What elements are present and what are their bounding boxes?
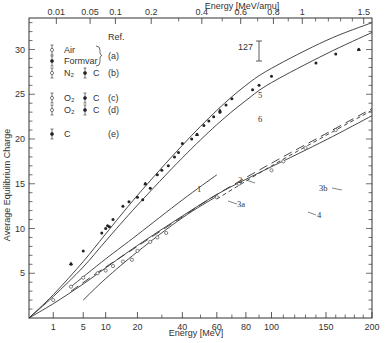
legend-label: O₂ [64,93,75,103]
x-tick-label: 150 [318,322,333,332]
filled-data-point [100,231,103,234]
open-data-point [130,258,133,261]
y-tick-label: 5 [20,268,25,278]
leader-2 [246,180,255,183]
open-data-point [52,299,55,302]
open-data-point [82,276,85,279]
curve-3a [83,196,217,300]
legend-ref: (d) [108,105,119,115]
filled-data-point [121,205,124,208]
top-tick-label: 0.2 [145,7,158,17]
filled-data-point [177,151,180,154]
curves [29,23,372,318]
open-data-point [69,285,72,288]
x-tick-label: 20 [132,322,142,332]
legend-label-2: C [93,68,100,78]
legend-symbol [50,96,53,99]
filled-data-point [190,138,193,141]
filled-data-point [82,249,85,252]
open-data-point [96,272,99,275]
curve-label-3a: 3a [237,199,245,209]
filled-data-point [225,103,228,106]
legend-ref: (e) [108,129,119,139]
y-tick-label: 25 [15,89,25,99]
filled-data-point [202,124,205,127]
data-points [52,48,361,302]
filled-data-point [136,196,139,199]
filled-data-point [314,61,317,64]
x-tick-label: 1 [51,322,56,332]
filled-data-point [141,198,144,201]
curve-label-1: 1 [197,184,201,194]
legend-ref: (b) [108,68,119,78]
leader-3a [228,201,237,204]
open-data-point [104,269,107,272]
legend-symbol [50,71,53,74]
curve-label-2: 2 [238,175,242,185]
x-tick-label: 5 [81,322,86,332]
legend-label: C [64,129,71,139]
curve-label-5: 5 [258,90,262,100]
x-axis-title: Energy [MeV] [169,328,224,338]
filled-data-point [207,120,210,123]
top-x-axis-title: Energy [MeV/amu] [205,1,280,11]
open-data-point [136,249,139,252]
open-data-point [111,264,114,267]
legend-ref: (c) [108,93,119,103]
annotation-127: 127 [238,41,262,61]
y-tick-label: 10 [15,224,25,234]
top-tick-label: 0.05 [81,7,99,17]
filled-data-point [127,200,130,203]
curve-labels: 56123b3a4 [197,90,342,220]
y-tick-label: 30 [15,45,25,55]
open-data-point [215,196,218,199]
legend-ref: (a) [108,51,119,61]
x-tick-label: 10 [101,322,111,332]
open-data-point [304,146,307,149]
legend-label: Formvar [64,56,98,66]
leader-3b [332,188,342,190]
legend-symbol [50,108,53,111]
filled-data-point [258,84,261,87]
filled-data-point [181,142,184,145]
top-tick-label: 1 [300,7,305,17]
curve-6 [29,33,372,319]
legend-symbol [50,59,53,62]
legend-symbol [50,48,53,51]
open-data-point [282,160,285,163]
curve-label-3b: 3b [319,183,328,193]
legend-label-2: C [93,93,100,103]
curve-1 [71,175,217,287]
filled-data-point [173,155,176,158]
y-axis-title: Average Equilibrium Charge [2,129,12,241]
triangle-data-point [69,261,73,265]
legend-header: Ref. [108,32,125,42]
legend-symbol-2 [83,108,86,111]
legend-symbol-2 [83,96,86,99]
open-data-point [121,260,124,263]
top-tick-label: 0.1 [109,7,122,17]
curve-3b [217,110,372,199]
legend: Ref.AirFormvar(a)N₂C(b)O₂C(c)O₂C(d)C(e) [50,32,124,139]
legend-symbol [50,132,53,135]
filled-data-point [230,97,233,100]
filled-data-point [112,218,115,221]
filled-data-point [149,187,152,190]
leader-4 [308,212,316,215]
filled-data-point [104,227,107,230]
open-data-point [270,169,273,172]
top-tick-label: 0.01 [48,7,66,17]
legend-label: N₂ [64,68,74,78]
chart: 151020406080100150200 0.010.050.10.20.40… [0,0,386,343]
open-data-point [156,236,159,239]
y-tick-label: 20 [15,134,25,144]
annotation-text: 127 [238,42,253,52]
filled-data-point [108,225,111,228]
filled-data-point [212,115,215,118]
legend-label-2: C [93,105,100,115]
filled-data-point [270,75,273,78]
legend-label: O₂ [64,105,75,115]
filled-data-point [156,173,159,176]
x-tick-label: 80 [241,322,251,332]
open-data-point [334,128,337,131]
